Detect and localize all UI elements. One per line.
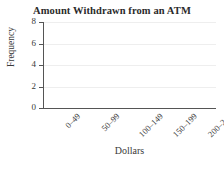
x-tick-label: 200–249 (205, 111, 224, 139)
y-tick-mark (39, 44, 44, 45)
x-tick-label: 50–99 (99, 111, 121, 133)
y-tick-label: 4 (20, 60, 36, 69)
x-tick-label: 150–199 (171, 111, 199, 139)
chart-title: Amount Withdrawn from an ATM (0, 5, 224, 16)
y-tick-mark (39, 87, 44, 88)
y-tick-mark (39, 108, 44, 109)
y-tick-label: 8 (20, 17, 36, 26)
plot-area (43, 22, 216, 108)
y-tick-mark (39, 22, 44, 23)
bars-layer (43, 22, 216, 108)
y-axis-label: Frequency (6, 12, 16, 82)
x-axis-label: Dollars (43, 145, 216, 156)
x-tick-label: 100–149 (136, 111, 164, 139)
y-tick-label: 2 (20, 82, 36, 91)
bar-chart: Amount Withdrawn from an ATM Frequency 0… (0, 0, 224, 170)
y-tick-label: 0 (20, 103, 36, 112)
x-axis-line (43, 108, 216, 109)
y-tick-mark (39, 65, 44, 66)
y-tick-label: 6 (20, 39, 36, 48)
x-tick-label: 0–49 (63, 111, 82, 130)
